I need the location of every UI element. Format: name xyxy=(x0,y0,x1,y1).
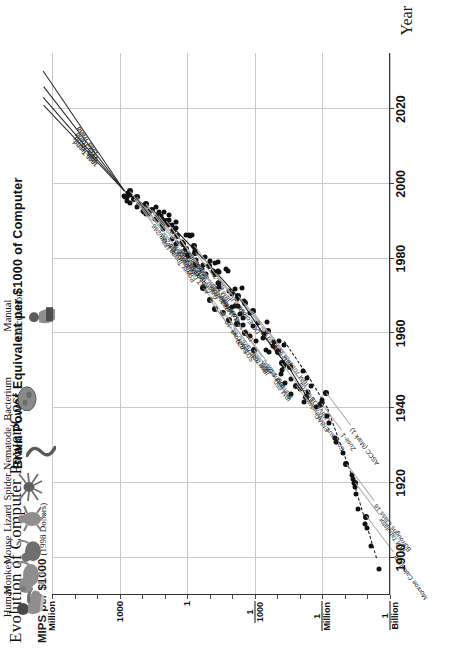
point-leader-line xyxy=(130,191,153,221)
x-tick-label: 2000 xyxy=(394,170,408,198)
y-tick xyxy=(322,595,323,599)
gridline-vertical xyxy=(52,557,390,558)
x-axis xyxy=(389,53,390,595)
brain-equivalent-label: Bacterium xyxy=(2,377,13,421)
y-tick-label: 1Billion xyxy=(381,601,400,631)
y-tick-label: 1Million xyxy=(313,601,332,632)
x-axis-label: Year xyxy=(398,6,416,35)
y-tick xyxy=(232,595,233,599)
y-tick-label: 11000 xyxy=(245,601,264,623)
y-tick-label: 1000 xyxy=(115,601,125,622)
gridline-vertical xyxy=(52,108,390,109)
y-tick xyxy=(97,595,98,599)
data-point xyxy=(125,199,130,204)
y-tick xyxy=(142,595,143,599)
brain-equivalent-item: ManualCalculation xyxy=(2,291,60,339)
gridline-horizontal xyxy=(390,53,391,595)
spider-icon xyxy=(15,472,47,502)
y-tick xyxy=(277,595,278,599)
data-point xyxy=(368,544,373,549)
x-tick-label: 1960 xyxy=(394,319,408,347)
gridline-vertical xyxy=(52,482,390,483)
data-point xyxy=(356,507,361,512)
y-tick xyxy=(367,595,368,599)
plot-area: 1995 Trend1985 Trend1975 Trend1965 Trend… xyxy=(52,53,390,595)
data-point xyxy=(309,383,314,388)
data-point xyxy=(264,320,269,325)
y-tick xyxy=(52,595,53,599)
data-point xyxy=(239,286,244,291)
data-point xyxy=(279,368,284,373)
y-tick xyxy=(345,595,346,599)
y-tick xyxy=(300,595,301,599)
data-point xyxy=(281,343,286,348)
y-tick xyxy=(390,595,391,599)
gridline-vertical xyxy=(52,332,390,333)
brain-equivalent-item: Mouse xyxy=(2,536,49,565)
data-point xyxy=(233,287,238,292)
worm-icon xyxy=(26,427,60,470)
gridline-vertical xyxy=(52,407,390,408)
y-tick xyxy=(120,595,121,599)
gridline-horizontal xyxy=(187,53,188,595)
gridline-horizontal xyxy=(322,53,323,595)
brain-equivalent-item: Spider xyxy=(2,472,47,502)
data-point xyxy=(266,349,271,354)
data-point xyxy=(187,233,192,238)
data-point xyxy=(363,521,368,526)
data-point xyxy=(174,220,179,225)
mouse-icon xyxy=(15,536,49,565)
data-point xyxy=(354,492,359,497)
y-tick xyxy=(187,595,188,599)
y-tick xyxy=(75,595,76,599)
brain-equivalent-item: Lizard xyxy=(2,503,49,533)
brain-equivalent-label: Lizard xyxy=(2,503,13,533)
x-tick-label: 1920 xyxy=(394,469,408,497)
data-point xyxy=(162,209,167,214)
x-tick-label: 1940 xyxy=(394,394,408,422)
brain-equivalent-label: Mouse xyxy=(2,536,13,565)
y-tick-label: 1 xyxy=(182,601,192,606)
brain-equivalent-label: ManualCalculation xyxy=(2,291,24,339)
brain-equivalent-item: Bacterium xyxy=(2,377,43,421)
y-tick xyxy=(255,595,256,599)
data-point xyxy=(166,212,171,217)
brain-equivalent-label: Spider xyxy=(2,472,13,502)
gridline-horizontal xyxy=(120,53,121,595)
data-point xyxy=(212,261,217,266)
data-point xyxy=(223,267,228,272)
y-tick xyxy=(165,595,166,599)
lizard-icon xyxy=(15,503,49,533)
brain-equivalents-layer: HumanMonkeyMouseLizardSpiderNematodeWorm… xyxy=(0,0,50,651)
gridline-vertical xyxy=(52,183,390,184)
brain-equivalent-item: NematodeWorm xyxy=(2,427,60,470)
data-point xyxy=(376,566,381,571)
y-tick xyxy=(210,595,211,599)
manual-calc-icon xyxy=(26,291,60,339)
gridline-vertical xyxy=(52,258,390,259)
x-tick-label: 2020 xyxy=(394,95,408,123)
y-axis xyxy=(52,594,390,595)
brain-equivalent-label: NematodeWorm xyxy=(2,427,24,470)
x-tick-label: 1900 xyxy=(394,544,408,572)
x-tick-label: 1980 xyxy=(394,245,408,273)
bacterium-icon xyxy=(15,377,43,421)
chart-figure: Evolution of Computer Power/Cost Brain P… xyxy=(0,0,467,651)
